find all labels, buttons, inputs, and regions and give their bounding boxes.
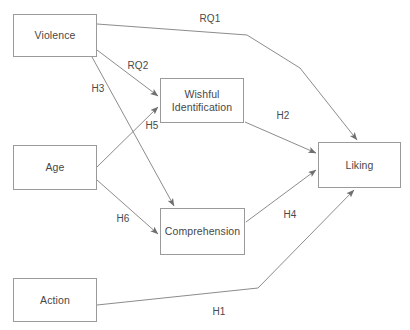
edge-label-h5: H5 bbox=[145, 120, 158, 131]
edge-h6 bbox=[97, 180, 158, 234]
node-liking[interactable]: Liking bbox=[318, 142, 401, 188]
node-action-label: Action bbox=[37, 294, 73, 307]
node-wishful-identification[interactable]: Wishful Identification bbox=[160, 78, 244, 123]
node-comprehension[interactable]: Comprehension bbox=[160, 208, 245, 255]
node-violence[interactable]: Violence bbox=[13, 14, 97, 57]
edge-rq2 bbox=[97, 50, 158, 96]
edge-label-h1: H1 bbox=[212, 306, 225, 317]
node-age[interactable]: Age bbox=[13, 145, 97, 190]
node-age-label: Age bbox=[43, 161, 68, 174]
node-liking-label: Liking bbox=[342, 159, 376, 172]
edge-label-h3: H3 bbox=[91, 83, 104, 94]
node-violence-label: Violence bbox=[32, 29, 79, 42]
node-comprehension-label: Comprehension bbox=[162, 225, 243, 238]
edge-label-rq2: RQ2 bbox=[127, 60, 148, 71]
edge-label-h6: H6 bbox=[116, 213, 129, 224]
node-wishful-line2: Identification bbox=[172, 101, 232, 113]
edge-h5 bbox=[97, 107, 158, 167]
edge-label-h2: H2 bbox=[276, 110, 289, 121]
node-wishful-line1: Wishful bbox=[184, 88, 219, 100]
node-wishful-identification-label: Wishful Identification bbox=[169, 88, 235, 114]
diagram-canvas: Violence Wishful Identification Age Liki… bbox=[0, 0, 410, 330]
edge-label-h4: H4 bbox=[283, 209, 296, 220]
node-action[interactable]: Action bbox=[13, 278, 97, 322]
edge-h2 bbox=[245, 122, 316, 153]
edge-h4 bbox=[246, 170, 316, 222]
edge-label-rq1: RQ1 bbox=[199, 13, 220, 24]
